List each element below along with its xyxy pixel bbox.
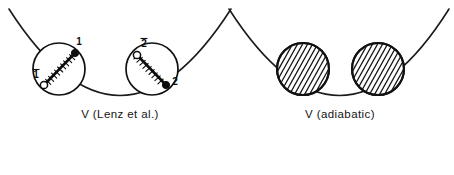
site-label-1-bar: 1 [33,69,39,80]
panel-adiabatic: V (adiabatic) [229,9,449,120]
atom-filled-2 [162,81,169,88]
diagram-canvas: 1 1 [0,0,454,175]
site-label-2-bar: 2 [141,38,147,49]
panel-lenz: 1 1 [9,9,231,120]
site-label-2: 2 [172,76,178,87]
atom-open-1bar [40,81,47,88]
parabolic-potential-curve-right [229,9,449,96]
caption-lenz: V (Lenz et al.) [81,108,159,120]
site-circle-a [257,38,351,108]
atom-filled-1 [71,49,78,56]
site-circle-b [332,38,426,108]
atom-open-2bar [133,51,140,58]
caption-adiabatic: V (adiabatic) [305,108,375,120]
site-label-1: 1 [76,36,82,47]
potential-diagram-figure: 1 1 [0,0,454,175]
site-circle-2: 2 2 [126,38,178,95]
site-circle-1: 1 1 [33,36,86,95]
